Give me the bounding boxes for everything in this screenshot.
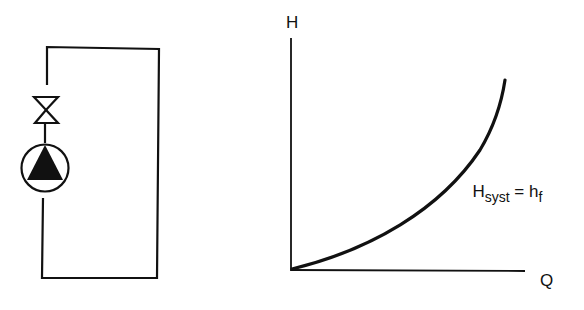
curve-label-rhs-sub: f bbox=[538, 189, 542, 205]
curve-label-main-sub: syst bbox=[485, 189, 510, 205]
curve-label: Hsyst = hf bbox=[463, 166, 542, 200]
graph-axes bbox=[291, 38, 525, 271]
y-axis-label: H bbox=[286, 14, 298, 31]
curve-label-main: H bbox=[472, 182, 484, 201]
curve-label-eq: = bbox=[510, 182, 529, 201]
x-axis-label: Q bbox=[540, 272, 553, 289]
valve-icon bbox=[34, 97, 58, 123]
pump-icon bbox=[22, 145, 69, 192]
diagram-canvas bbox=[0, 0, 584, 310]
